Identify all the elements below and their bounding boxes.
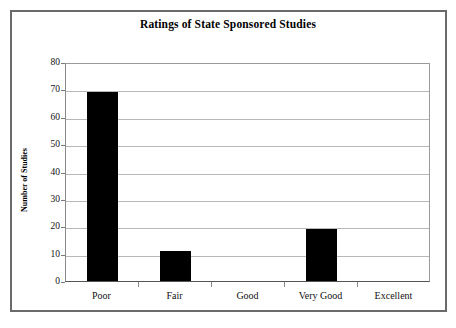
- x-axis-tick-label: Very Good: [284, 290, 357, 301]
- y-axis-tick-label: 0: [34, 277, 60, 287]
- y-axis-tick-label: 30: [34, 195, 60, 205]
- y-axis-tick-label: 50: [34, 140, 60, 150]
- gridline: [66, 201, 429, 202]
- x-axis-tick-mark: [138, 282, 139, 287]
- gridline: [66, 146, 429, 147]
- x-axis-tick-mark: [357, 282, 358, 287]
- gridline: [66, 174, 429, 175]
- gridline: [66, 228, 429, 229]
- chart-figure: Ratings of State Sponsored Studies Numbe…: [0, 0, 456, 328]
- bar: [160, 251, 191, 281]
- x-axis-tick-mark: [284, 282, 285, 287]
- plot-area: [65, 63, 430, 282]
- x-axis-tick-mark: [211, 282, 212, 287]
- gridline: [66, 91, 429, 92]
- y-axis-tick-label: 10: [34, 250, 60, 260]
- gridline: [66, 119, 429, 120]
- x-axis-tick-label: Poor: [65, 290, 138, 301]
- gridline: [66, 256, 429, 257]
- y-axis-tick-label: 70: [34, 85, 60, 95]
- x-axis-tick-label: Excellent: [357, 290, 430, 301]
- y-axis-tick-label: 80: [34, 58, 60, 68]
- bar: [306, 229, 337, 281]
- x-axis-tick-marks: [65, 282, 431, 288]
- bar: [87, 92, 118, 281]
- chart-title: Ratings of State Sponsored Studies: [0, 18, 456, 30]
- y-axis-tick-label: 60: [34, 113, 60, 123]
- x-axis-tick-label: Good: [211, 290, 284, 301]
- y-axis-tick-labels: 80706050403020100: [30, 63, 60, 282]
- y-axis-tick-label: 40: [34, 168, 60, 178]
- x-axis-tick-label: Fair: [138, 290, 211, 301]
- x-axis-tick-labels: PoorFairGoodVery GoodExcellent: [65, 290, 431, 306]
- y-axis-tick-label: 20: [34, 222, 60, 232]
